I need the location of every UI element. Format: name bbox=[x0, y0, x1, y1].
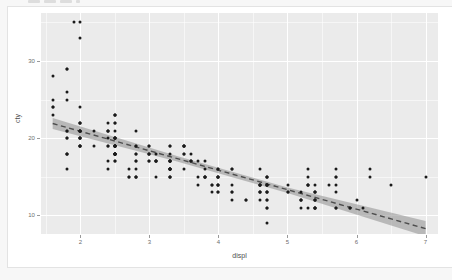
data-point bbox=[93, 129, 96, 132]
data-point bbox=[65, 137, 68, 140]
data-point bbox=[72, 21, 75, 24]
data-point bbox=[182, 168, 185, 171]
data-point bbox=[217, 183, 220, 186]
data-point bbox=[245, 199, 248, 202]
x-tick-mark bbox=[357, 235, 358, 238]
data-point bbox=[210, 183, 213, 186]
data-point bbox=[314, 191, 317, 194]
y-tick-mark bbox=[37, 215, 40, 216]
data-point bbox=[155, 152, 158, 155]
data-point bbox=[65, 90, 68, 93]
data-point bbox=[134, 160, 137, 163]
data-point bbox=[231, 183, 234, 186]
data-point bbox=[424, 175, 427, 178]
data-point bbox=[65, 67, 68, 70]
data-point bbox=[334, 183, 337, 186]
data-point bbox=[189, 160, 192, 163]
data-point bbox=[182, 144, 185, 147]
data-point bbox=[265, 199, 268, 202]
data-point bbox=[113, 160, 116, 163]
data-point bbox=[314, 199, 317, 202]
data-point bbox=[113, 129, 116, 132]
data-point bbox=[134, 152, 137, 155]
data-point bbox=[113, 152, 116, 155]
data-point bbox=[93, 144, 96, 147]
data-point bbox=[217, 168, 220, 171]
data-point bbox=[300, 206, 303, 209]
data-point bbox=[348, 206, 351, 209]
data-point bbox=[196, 175, 199, 178]
toolbar-chip-1 bbox=[28, 0, 40, 3]
data-point bbox=[182, 152, 185, 155]
data-point bbox=[148, 152, 151, 155]
data-point bbox=[258, 183, 261, 186]
data-point bbox=[314, 206, 317, 209]
data-point bbox=[134, 144, 137, 147]
data-point bbox=[286, 183, 289, 186]
data-point bbox=[231, 199, 234, 202]
data-point bbox=[155, 175, 158, 178]
x-tick-label: 5 bbox=[286, 239, 289, 245]
data-point bbox=[217, 191, 220, 194]
x-tick-mark bbox=[426, 235, 427, 238]
data-point bbox=[134, 168, 137, 171]
data-point bbox=[113, 121, 116, 124]
data-point bbox=[362, 206, 365, 209]
data-point bbox=[79, 36, 82, 39]
data-point bbox=[113, 144, 116, 147]
data-point bbox=[203, 168, 206, 171]
x-tick-mark bbox=[218, 235, 219, 238]
data-point bbox=[155, 160, 158, 163]
x-axis-title: displ bbox=[41, 252, 438, 259]
data-point bbox=[107, 129, 110, 132]
data-point bbox=[65, 129, 68, 132]
data-point bbox=[265, 206, 268, 209]
y-tick-label: 10 bbox=[19, 212, 35, 218]
data-point bbox=[169, 160, 172, 163]
data-point bbox=[107, 121, 110, 124]
data-point bbox=[127, 175, 130, 178]
x-tick-mark bbox=[149, 235, 150, 238]
data-point bbox=[65, 152, 68, 155]
toolbar-chip-3 bbox=[60, 0, 72, 3]
data-point bbox=[307, 206, 310, 209]
y-tick-label: 20 bbox=[19, 135, 35, 141]
data-point bbox=[127, 168, 130, 171]
scatter-plot: 234567 102030 displ cty bbox=[8, 7, 452, 269]
data-point bbox=[334, 191, 337, 194]
data-point bbox=[390, 183, 393, 186]
cropped-toolbar-sliver bbox=[28, 0, 80, 4]
x-tick-label: 3 bbox=[148, 239, 151, 245]
data-point bbox=[369, 175, 372, 178]
data-point bbox=[148, 144, 151, 147]
data-point bbox=[307, 168, 310, 171]
x-tick-mark bbox=[80, 235, 81, 238]
data-point bbox=[79, 121, 82, 124]
data-point bbox=[265, 222, 268, 225]
data-point bbox=[107, 144, 110, 147]
data-point bbox=[258, 199, 261, 202]
data-point bbox=[79, 106, 82, 109]
data-point bbox=[134, 175, 137, 178]
data-point bbox=[314, 183, 317, 186]
data-point bbox=[107, 168, 110, 171]
data-point bbox=[79, 21, 82, 24]
data-point bbox=[217, 175, 220, 178]
data-point bbox=[307, 183, 310, 186]
data-point bbox=[65, 168, 68, 171]
data-point bbox=[134, 129, 137, 132]
data-point bbox=[334, 206, 337, 209]
data-point bbox=[231, 191, 234, 194]
data-point bbox=[51, 98, 54, 101]
data-point bbox=[327, 183, 330, 186]
data-point bbox=[231, 168, 234, 171]
data-point bbox=[265, 183, 268, 186]
plot-panel bbox=[41, 13, 438, 234]
data-point bbox=[51, 106, 54, 109]
figure-card: 234567 102030 displ cty bbox=[7, 6, 452, 268]
data-point bbox=[113, 114, 116, 117]
data-point bbox=[107, 137, 110, 140]
y-tick-mark bbox=[37, 61, 40, 62]
data-point bbox=[286, 191, 289, 194]
data-point bbox=[203, 175, 206, 178]
